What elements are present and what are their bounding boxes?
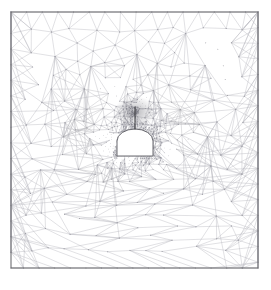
- mesh-canvas: [0, 0, 271, 290]
- tunnel-cavity: [117, 129, 153, 156]
- mesh-figure: [0, 0, 271, 290]
